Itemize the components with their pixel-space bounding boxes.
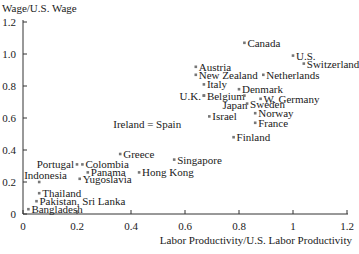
y-tick-label: 0.6	[2, 112, 16, 124]
y-tick-label: 0	[11, 208, 17, 220]
marker-icon	[195, 66, 198, 69]
y-tick-label: 0.8	[2, 80, 16, 92]
marker-icon	[262, 74, 265, 77]
x-tick-label: 0	[20, 220, 26, 232]
marker-icon	[203, 94, 206, 97]
marker-icon	[38, 181, 41, 184]
marker-icon	[246, 102, 249, 105]
data-point: Italy	[203, 78, 228, 90]
marker-icon	[232, 136, 235, 139]
y-tick-label: 0.2	[2, 176, 16, 188]
data-point: Switzerland	[303, 58, 359, 70]
point-label: Switzerland	[307, 58, 359, 70]
marker-icon	[78, 178, 81, 181]
point-label: France	[258, 117, 288, 129]
y-tick-label: 1.0	[2, 48, 16, 60]
data-point: Indonesia	[24, 169, 67, 183]
point-label: Japan	[222, 99, 248, 111]
marker-icon	[119, 153, 122, 156]
data-point: U.K.	[180, 90, 206, 102]
chart-canvas: Wage/U.S. Wage Labor Productivity/U.S. L…	[0, 0, 359, 254]
data-point: Yugoslavia	[78, 173, 131, 185]
marker-icon	[254, 122, 257, 125]
point-label: Hong Kong	[142, 166, 194, 178]
data-point: Netherlands	[262, 69, 319, 81]
x-tick-label: 1	[290, 220, 296, 232]
marker-icon	[138, 171, 141, 174]
data-point: France	[254, 117, 288, 129]
x-tick-label: 0.4	[124, 220, 138, 232]
point-label: Singapore	[177, 154, 222, 166]
marker-icon	[208, 115, 211, 118]
marker-icon	[243, 94, 246, 97]
point-label: U.K.	[180, 90, 202, 102]
point-label: Netherlands	[266, 69, 319, 81]
marker-icon	[243, 42, 246, 45]
marker-icon	[203, 83, 206, 86]
x-tick-label: 0.6	[178, 220, 192, 232]
data-point: Canada	[243, 37, 280, 49]
point-label: Finland	[237, 131, 271, 143]
y-tick-label: 0.4	[2, 144, 16, 156]
point-label: Italy	[207, 78, 228, 90]
y-axis-title: Wage/U.S. Wage	[2, 2, 77, 14]
marker-icon	[38, 192, 41, 195]
point-label: Bangladesh	[31, 203, 83, 215]
marker-icon	[254, 112, 257, 115]
x-axis-title: Labor Productivity/U.S. Labor Productivi…	[160, 234, 353, 246]
data-point: Singapore	[173, 154, 222, 166]
marker-icon	[35, 200, 38, 203]
x-tick-label: 0.8	[232, 220, 246, 232]
data-point: Hong Kong	[138, 166, 194, 178]
point-label: Indonesia	[24, 169, 67, 181]
y-tick-label: 1.2	[2, 16, 16, 28]
point-label: Yugoslavia	[83, 173, 132, 185]
point-label: Ireland = Spain	[113, 118, 181, 130]
x-tick-label: 0.2	[70, 220, 84, 232]
marker-icon	[195, 74, 198, 77]
data-point: Israel	[208, 110, 237, 122]
marker-icon	[292, 54, 295, 57]
marker-icon	[76, 163, 79, 166]
marker-icon	[27, 208, 30, 211]
data-point: Finland	[232, 131, 270, 143]
marker-icon	[81, 163, 84, 166]
data-point: Ireland = Spain	[113, 118, 181, 130]
point-label: Israel	[212, 110, 236, 122]
data-point: Bangladesh	[27, 203, 83, 215]
scatter-chart: Wage/U.S. Wage Labor Productivity/U.S. L…	[0, 0, 359, 254]
x-tick-label: 1.2	[340, 220, 354, 232]
marker-icon	[173, 158, 176, 161]
data-points: CanadaU.S.SwitzerlandAustriaNew ZealandN…	[24, 37, 359, 215]
marker-icon	[303, 62, 306, 65]
point-label: Canada	[247, 37, 280, 49]
